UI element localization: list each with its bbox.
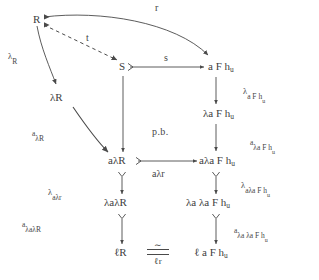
- edge-label-a-lambda-a-F-hu: aλa F hu: [250, 139, 275, 155]
- node-ell-R: ℓR: [114, 247, 127, 258]
- edge-label-a-lambda-a-lambda-R: aλaλR: [22, 221, 41, 234]
- edge-label-lambda-R: λR: [8, 52, 17, 66]
- arrow-a-lambda-a-lambda-a-F-hu: [212, 214, 219, 244]
- edge-label-lambda-a-F-hu: λa F hu: [243, 87, 265, 104]
- arrow-r: [44, 14, 208, 55]
- pullback-marker-label: p.b.: [152, 126, 169, 137]
- arrow-lambda-R: [37, 26, 56, 84]
- edge-label-r: r: [155, 3, 158, 13]
- tilde-glyph: ∼: [147, 243, 169, 248]
- commutative-diagram: R S a F hu λR λa F hu aλR aλa F hu λaλR …: [0, 0, 319, 280]
- node-a-F-hu: a F hu: [208, 61, 234, 73]
- edge-label-lambda-a-lambda-r: λaλr: [48, 188, 62, 202]
- arrow-lambda-a-lambda-a-F-hu: [212, 172, 219, 194]
- arrow-s: [128, 63, 204, 70]
- arrow-lambda-a-lambda-r: [118, 172, 125, 194]
- edge-label-a-lambda-R: aλR: [32, 130, 44, 143]
- arrow-a-lambda-a-lambda-R: [118, 214, 125, 244]
- node-R: R: [33, 14, 40, 25]
- node-a-lambda-a-F-hu: aλa F hu: [199, 155, 235, 167]
- arrow-a-lambda-r: [136, 157, 197, 164]
- node-S: S: [119, 61, 125, 72]
- edge-label-lambda-a-lambda-a-F-hu: λaλa F hu: [241, 181, 270, 198]
- iso-label: ℓr: [147, 256, 169, 266]
- node-ell-a-F-hu: ℓ a F hu: [194, 247, 228, 259]
- edge-label-a-lambda-a-lambda-a-F-hu: aλa λa F hu: [234, 227, 268, 243]
- arrow-t: [44, 22, 117, 60]
- edge-label-a-lambda-r: aλr: [152, 169, 165, 179]
- node-a-lambda-R: aλR: [108, 155, 126, 166]
- node-lambda-a-F-hu: λa F hu: [203, 108, 234, 120]
- node-lambda-R: λR: [50, 92, 63, 103]
- edge-label-s: s: [164, 53, 168, 63]
- arrow-a-lambda-R: [73, 107, 108, 152]
- iso-arrow-ell-r: ∼ ℓr: [147, 243, 169, 266]
- node-lambda-a-lambda-a-F-hu: λa λa F hu: [186, 197, 230, 209]
- node-lambda-a-lambda-R: λaλR: [104, 197, 127, 208]
- edge-label-t: t: [86, 33, 89, 43]
